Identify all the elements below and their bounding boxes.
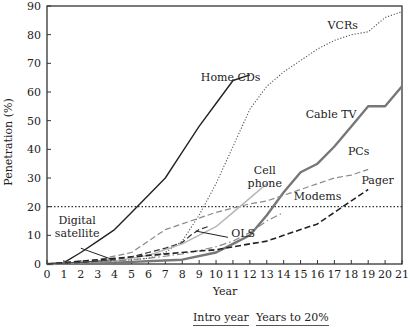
y-axis-title: Penetration (%) (2, 98, 15, 185)
x-tick-label: 7 (162, 268, 169, 281)
x-axis-title: Year (212, 285, 238, 298)
x-tick-label: 18 (344, 268, 358, 281)
series-line-vcrs (47, 12, 402, 264)
y-tick-label: 10 (27, 229, 41, 242)
series-label-pager: Pager (361, 174, 394, 187)
series-label-vcrs: VCRs (327, 19, 359, 32)
x-tick-label: 13 (260, 268, 274, 281)
x-tick-label: 14 (277, 268, 291, 281)
x-tick-label: 4 (111, 268, 118, 281)
x-tick-label: 1 (60, 268, 67, 281)
series-label-home-cds: Home CDs (201, 71, 261, 84)
x-tick-label: 17 (327, 268, 341, 281)
x-tick-label: 21 (395, 268, 409, 281)
series-labels: Home CDsVCRsCable TVPCsCellphoneModemsPa… (55, 19, 395, 260)
y-tick-label: 60 (27, 86, 41, 99)
y-tick-label: 50 (27, 115, 41, 128)
series-label-cell-phone: Cellphone (248, 164, 282, 190)
x-tick-label: 11 (226, 268, 240, 281)
series-label-digital-satellite: Digitalsatellite (55, 214, 100, 240)
series-label-pcs: PCs (348, 145, 370, 158)
plot-frame (47, 6, 402, 264)
y-tick-label: 80 (27, 29, 41, 42)
x-tick-label: 12 (243, 268, 257, 281)
y-tick-label: 70 (27, 57, 41, 70)
footer-intro-year: Intro year (193, 311, 249, 326)
footer-years-to-20: Years to 20% (256, 311, 329, 326)
x-tick-label: 5 (128, 268, 135, 281)
x-tick-label: 3 (94, 268, 101, 281)
series-label-ols: OLS (231, 227, 255, 240)
x-tick-label: 6 (145, 268, 152, 281)
x-tick-label: 19 (361, 268, 375, 281)
x-tick-label: 9 (196, 268, 203, 281)
annotation-pointer (81, 248, 113, 259)
x-tick-label: 10 (209, 268, 223, 281)
x-tick-label: 8 (179, 268, 186, 281)
y-tick-label: 0 (34, 258, 41, 271)
series-label-cable-tv: Cable TV (306, 108, 358, 121)
x-tick-label: 16 (310, 268, 324, 281)
x-tick-label: 0 (44, 268, 51, 281)
x-tick-label: 2 (77, 268, 84, 281)
y-tick-label: 30 (27, 172, 41, 185)
y-tick-label: 40 (27, 143, 41, 156)
x-tick-label: 15 (294, 268, 308, 281)
chart-canvas: 0102030405060708090012345678910111213141… (0, 0, 410, 335)
y-tick-label: 90 (27, 0, 41, 13)
series-label-modems: Modems (294, 190, 342, 203)
x-tick-label: 20 (378, 268, 392, 281)
y-tick-label: 20 (27, 201, 41, 214)
series-lines (47, 12, 402, 264)
